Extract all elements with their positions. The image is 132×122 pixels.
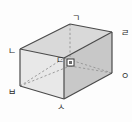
rectangular-prism-figure: ㄱ ㄹ ㄴ ㄷ ㅇ ㅂ ㅅ xyxy=(0,0,132,122)
vertex-label-s: ㅅ xyxy=(57,103,65,112)
vertex-label-b: ㅂ xyxy=(8,88,16,97)
right-angle-marker-inner-icon xyxy=(69,61,72,64)
vertex-label-n: ㄴ xyxy=(8,47,16,56)
vertex-label-g: ㄱ xyxy=(72,14,80,23)
vertex-label-o: ㅇ xyxy=(121,72,129,81)
vertex-label-d: ㄷ xyxy=(56,56,64,65)
vertex-label-l: ㄹ xyxy=(121,29,129,38)
prism-drawing xyxy=(0,0,132,122)
